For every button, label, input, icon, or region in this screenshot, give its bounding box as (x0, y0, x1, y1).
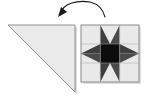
cell-center-square (100, 44, 119, 63)
sawtooth-star-block[interactable] (81, 25, 141, 84)
cell-plain-square-bottom-left (81, 63, 100, 82)
diagram-canvas (0, 0, 150, 101)
quilt-diagram (0, 0, 150, 101)
cell-plain-square-top-left (81, 25, 100, 44)
cell-plain-square-bottom-right (120, 63, 139, 82)
cell-plain-square-top-right (120, 25, 139, 44)
